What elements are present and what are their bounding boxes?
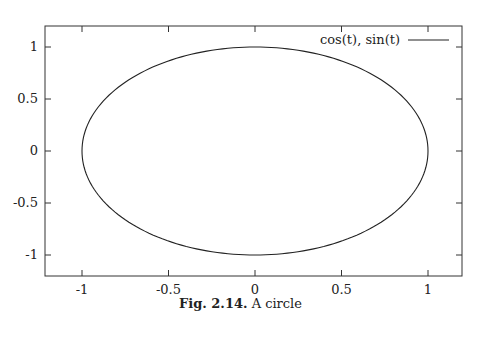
x-tick-label: -1 — [76, 282, 89, 297]
legend-label: cos(t), sin(t) — [320, 32, 400, 47]
caption-prefix: Fig. 2.14. — [179, 296, 248, 311]
x-tick-label: 0.5 — [331, 282, 352, 297]
x-tick-label: -0.5 — [156, 282, 181, 297]
caption-text: A circle — [252, 296, 302, 311]
axis-ticks — [45, 26, 462, 276]
y-tick-label: 1 — [30, 39, 38, 54]
plot-frame — [45, 26, 462, 276]
figure-caption: Fig. 2.14. A circle — [0, 296, 481, 311]
plot-area: -1-0.500.5110.50-0.5-1 cos(t), sin(t) — [0, 0, 481, 338]
x-tick-label: 0 — [251, 282, 259, 297]
y-tick-label: -0.5 — [13, 195, 38, 210]
circle-curve — [82, 47, 428, 255]
legend: cos(t), sin(t) — [320, 32, 449, 47]
tick-labels: -1-0.500.5110.50-0.5-1 — [13, 39, 432, 297]
y-tick-label: 0.5 — [17, 91, 38, 106]
y-tick-label: -1 — [25, 247, 38, 262]
x-tick-label: 1 — [424, 282, 432, 297]
y-tick-label: 0 — [30, 143, 38, 158]
